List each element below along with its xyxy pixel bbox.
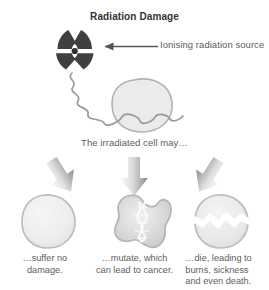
caption-line: …mutate, which — [92, 253, 178, 265]
source-label: Ionising radiation source — [160, 39, 264, 50]
caption-line: can lead to cancer. — [92, 265, 178, 277]
radiation-damage-diagram: r cell mutations. Radiation Damage The i… — [0, 0, 269, 290]
middle-label: The irradiated cell may… — [0, 137, 269, 148]
radiation-trefoil-icon — [56, 30, 94, 70]
irradiated-cell-icon — [112, 79, 172, 132]
arrow-down-icon — [120, 157, 148, 196]
caption-no-damage: …suffer no damage. — [0, 253, 90, 276]
arrow-left-icon — [105, 42, 159, 50]
healthy-cell-icon — [22, 195, 75, 248]
mutated-cell-dna-icon — [115, 195, 171, 247]
outcome-captions: …suffer no damage. …mutate, which can le… — [0, 253, 269, 288]
page-title: Radiation Damage — [0, 11, 269, 22]
caption-line: …suffer no — [2, 253, 88, 265]
dying-cell-cracked-icon — [194, 195, 249, 248]
caption-line: …die, leading to — [185, 253, 267, 265]
caption-line: burns, sickness — [185, 265, 267, 277]
caption-line: and even death. — [185, 276, 267, 288]
caption-mutate: …mutate, which can lead to cancer. — [90, 253, 180, 276]
cut-off-top-text: r cell mutations. — [0, 0, 160, 3]
caption-line: damage. — [2, 265, 88, 277]
outcome-cells — [0, 192, 269, 252]
caption-die: …die, leading to burns, sickness and eve… — [179, 253, 269, 288]
